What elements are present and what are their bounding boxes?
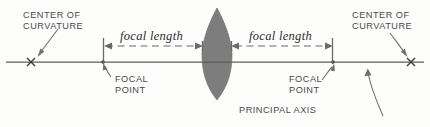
leader-principal-axis bbox=[364, 69, 383, 117]
focal-point-left-label-line1: FOCAL bbox=[115, 74, 148, 84]
leader-focal-point-left bbox=[103, 63, 111, 77]
converging-lens-shape bbox=[202, 8, 232, 100]
center-of-curvature-left-label-line2: CURVATURE bbox=[23, 21, 83, 31]
center-of-curvature-right-label-line1: CENTER OF bbox=[352, 10, 410, 20]
focal-length-left-label: focal length bbox=[120, 29, 183, 43]
optics-lens-diagram: CENTER OF CURVATURE CENTER OF CURVATURE … bbox=[0, 0, 430, 127]
diagram-canvas: CENTER OF CURVATURE CENTER OF CURVATURE … bbox=[0, 0, 430, 127]
center-of-curvature-left-label-line1: CENTER OF bbox=[23, 10, 81, 20]
leader-center-of-curvature-right bbox=[390, 33, 408, 57]
leader-focal-point-right bbox=[322, 64, 335, 81]
focal-point-right-label-line2: POINT bbox=[289, 85, 320, 95]
principal-axis-label: PRINCIPAL AXIS bbox=[239, 105, 316, 115]
focal-point-right-label-line1: FOCAL bbox=[289, 74, 322, 84]
focal-length-right-label: focal length bbox=[249, 29, 312, 43]
leader-center-of-curvature-left bbox=[38, 29, 59, 57]
center-of-curvature-right-label-line2: CURVATURE bbox=[352, 21, 412, 31]
focal-point-left-label-line2: POINT bbox=[115, 85, 146, 95]
